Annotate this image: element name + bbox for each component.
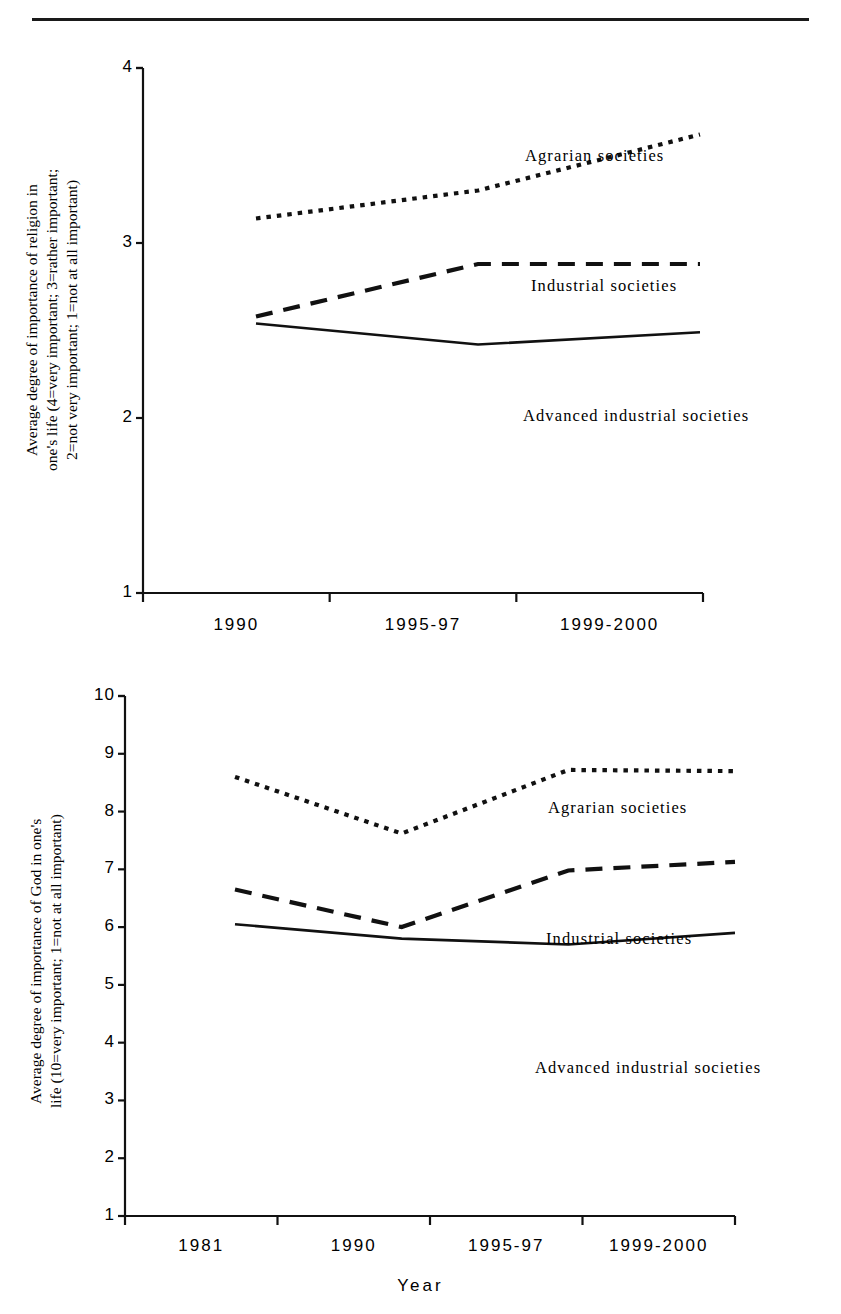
chart2-y-tick-8: 8 xyxy=(73,801,115,821)
chart1-y-tick-3: 3 xyxy=(91,232,133,252)
chart2-y-axis-label: Average degree of importance of God in o… xyxy=(26,706,70,1216)
chart1-y-axis-label: Average degree of importance of religion… xyxy=(22,60,86,580)
chart2-y-tick-5: 5 xyxy=(73,974,115,994)
chart1-series-label-advanced: Advanced industrial societies xyxy=(523,406,749,426)
chart2-y-tick-9: 9 xyxy=(73,743,115,763)
chart2-y-tick-3: 3 xyxy=(73,1089,115,1109)
chart2-y-tick-2: 2 xyxy=(73,1147,115,1167)
chart2-x-axis-title: Year xyxy=(0,1276,841,1296)
header-divider xyxy=(32,18,809,21)
chart2-x-tick-3: 1999-2000 xyxy=(569,1236,749,1256)
chart1-y-tick-2: 2 xyxy=(91,407,133,427)
chart1-y-tick-1: 1 xyxy=(91,582,133,602)
chart1-plot-svg xyxy=(143,68,841,628)
god-importance-chart: Average degree of importance of God in o… xyxy=(0,676,841,1296)
chart2-series-label-industrial: Industrial societies xyxy=(546,929,692,949)
chart1-y-tick-4: 4 xyxy=(91,57,133,77)
chart2-series-label-advanced: Advanced industrial societies xyxy=(535,1058,761,1078)
chart2-y-tick-7: 7 xyxy=(73,858,115,878)
chart2-y-tick-1: 1 xyxy=(73,1205,115,1225)
chart2-series-label-agrarian: Agrarian societies xyxy=(548,798,687,818)
chart1-x-tick-0: 1990 xyxy=(146,615,326,635)
religion-importance-chart: Average degree of importance of religion… xyxy=(0,48,841,648)
chart1-x-tick-1: 1995-97 xyxy=(333,615,513,635)
chart2-plot-svg xyxy=(125,696,841,1256)
chart1-series-label-agrarian: Agrarian societies xyxy=(525,146,664,166)
chart1-series-label-industrial: Industrial societies xyxy=(531,276,677,296)
chart2-y-tick-6: 6 xyxy=(73,916,115,936)
chart2-y-tick-4: 4 xyxy=(73,1032,115,1052)
chart1-x-tick-2: 1999-2000 xyxy=(520,615,700,635)
chart2-y-tick-10: 10 xyxy=(73,685,115,705)
